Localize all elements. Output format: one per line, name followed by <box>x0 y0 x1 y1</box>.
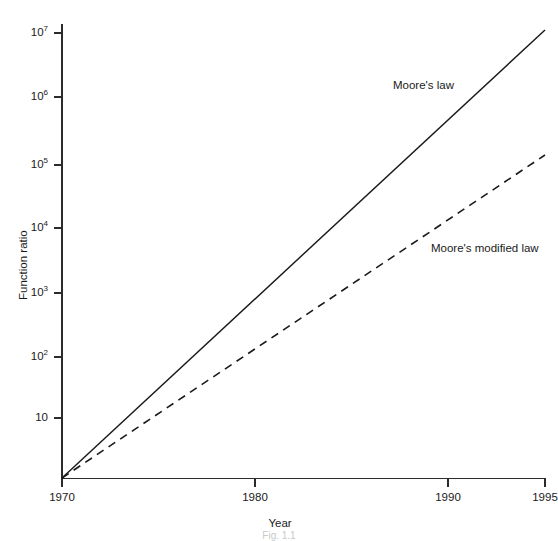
series-label-moores-modified-law: Moore's modified law <box>431 243 539 255</box>
y-tick-label-1e6: 106 <box>31 91 48 103</box>
y-axis-title: Function ratio <box>18 230 30 300</box>
y-tick-label-1e4: 104 <box>31 222 48 234</box>
series-label-moores-law: Moore's law <box>393 80 454 92</box>
y-tick-label-1e7: 107 <box>31 27 48 39</box>
x-tick-label-1995: 1995 <box>517 492 558 504</box>
x-tick-label-1990: 1990 <box>420 492 476 504</box>
x-tick-label-1970: 1970 <box>34 492 90 504</box>
x-axis-title: Year <box>240 518 320 530</box>
figure-caption: Fig. 1.1 <box>229 531 329 541</box>
y-tick-label-1e5: 105 <box>31 159 48 171</box>
x-tick-label-1980: 1980 <box>227 492 283 504</box>
series-line-moores-modified-law <box>62 155 545 478</box>
x-axis-ticks <box>62 478 545 487</box>
y-tick-label-1e1: 10 <box>35 412 48 424</box>
y-axis-ticks <box>54 33 62 418</box>
y-tick-label-1e3: 103 <box>31 287 48 299</box>
y-tick-label-1e2: 102 <box>31 351 48 363</box>
